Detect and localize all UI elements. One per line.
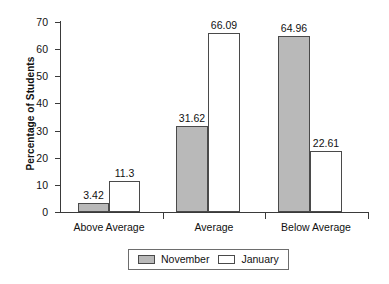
legend-label-november: November [161,254,209,265]
x-category-label-average: Average [164,221,264,233]
bar-november-below-average [278,36,310,212]
y-tick-label-50: 50 [8,71,48,81]
bar-value-january-below-average: 22.61 [298,138,354,149]
y-tick-label-0: 0 [8,207,48,217]
x-category-label-below-average: Below Average [256,221,376,233]
x-tick-separator-3 [368,213,369,219]
bar-value-january-above-average: 11.3 [97,168,152,179]
y-tick-label-40: 40 [8,98,48,108]
bar-november-average [176,126,208,212]
bar-value-january-average: 66.09 [196,20,252,31]
y-tick-label-20: 20 [8,153,48,163]
x-category-label-above-average: Above Average [49,221,169,233]
y-tick-50 [55,76,61,77]
y-tick-label-10: 10 [8,180,48,190]
bar-january-above-average [109,181,140,212]
y-tick-label-30: 30 [8,126,48,136]
gray-swatch-icon [138,255,155,264]
white-swatch-icon [218,255,235,264]
y-tick-label-70: 70 [8,17,48,27]
y-tick-70 [55,22,61,23]
y-tick-60 [55,49,61,50]
y-tick-20 [55,158,61,159]
y-tick-40 [55,103,61,104]
y-tick-30 [55,131,61,132]
x-axis-line [60,212,369,213]
chart-legend: November January [128,249,289,270]
bar-value-november-below-average: 64.96 [266,23,322,34]
bar-chart: Percentage of Students 0 10 20 30 40 50 … [0,0,389,284]
bar-january-below-average [310,151,342,212]
x-tick-separator-2 [265,213,266,219]
y-tick-label-60: 60 [8,44,48,54]
bar-january-average [208,33,240,212]
y-tick-0 [55,212,61,213]
legend-entry-november: November [138,254,209,265]
x-tick-separator-1 [163,213,164,219]
bar-november-above-average [78,203,109,212]
y-tick-10 [55,185,61,186]
legend-label-january: January [241,254,278,265]
legend-entry-january: January [218,254,278,265]
